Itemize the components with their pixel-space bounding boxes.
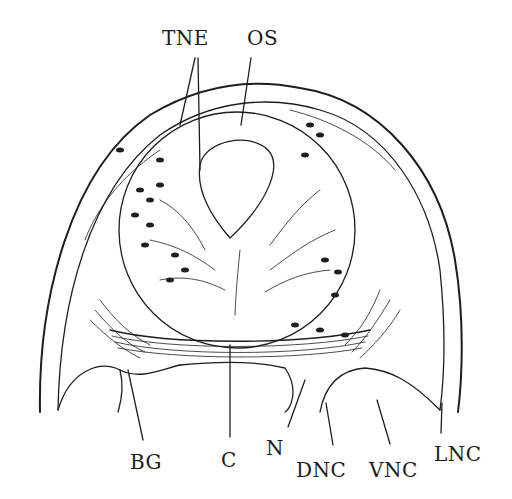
- label-n: N: [266, 438, 284, 458]
- inner-outline: [58, 102, 444, 410]
- leader-bg: [128, 370, 143, 440]
- label-tne: TNE: [162, 28, 209, 48]
- label-os: OS: [247, 28, 278, 48]
- label-c: C: [221, 450, 237, 470]
- cell-bodies: [116, 123, 349, 338]
- leader-vnc: [377, 400, 390, 444]
- leader-os: [241, 58, 251, 125]
- pharynx-circle: [119, 112, 355, 348]
- oral-opening: [199, 140, 273, 238]
- leader-dnc: [326, 403, 333, 445]
- label-lnc: LNC: [434, 444, 482, 464]
- leader-tne-1: [180, 58, 195, 125]
- label-dnc: DNC: [296, 460, 346, 480]
- nerve-ring-band: [110, 330, 370, 341]
- label-vnc: VNC: [369, 460, 418, 480]
- label-bg: BG: [130, 452, 162, 472]
- diagram-drawing: [0, 0, 512, 499]
- leader-lnc: [441, 403, 442, 433]
- nerve-ring-diagram: TNE OS BG C N DNC VNC LNC: [0, 0, 512, 499]
